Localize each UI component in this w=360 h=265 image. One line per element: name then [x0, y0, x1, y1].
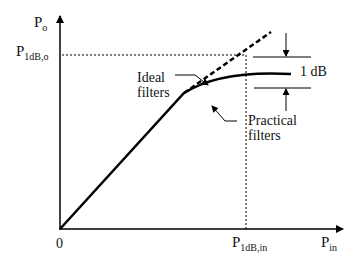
ideal-line	[184, 32, 271, 93]
diagram-canvas	[0, 0, 360, 265]
practical-curve	[60, 73, 291, 229]
practical-filters-label: Practical filters	[248, 113, 297, 143]
y-axis-label: Po	[34, 15, 47, 30]
1db-label: 1 dB	[300, 65, 327, 79]
x-axis-label: Pin	[321, 235, 337, 250]
p1db-out-label: P1dB,o	[16, 44, 49, 59]
p1db-in-label: P1dB,in	[232, 235, 267, 250]
ideal-filters-label: Ideal filters	[137, 70, 170, 100]
practical-leader	[212, 106, 237, 121]
origin-label: 0	[56, 237, 63, 251]
